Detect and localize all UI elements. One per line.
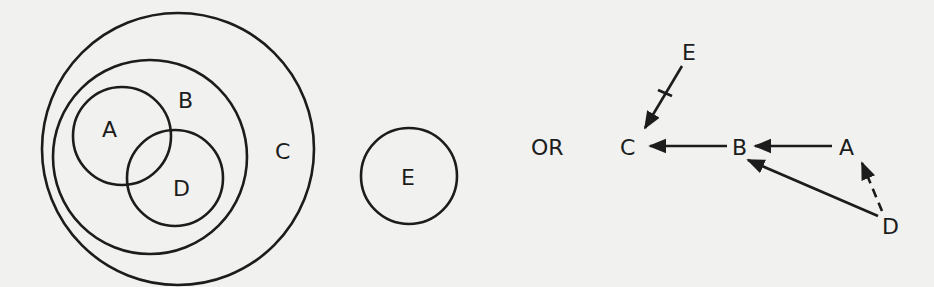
diagram-canvas: A B C D E OR E C B A D [0, 0, 934, 287]
node-b: B [732, 135, 747, 160]
set-a-circle [73, 87, 171, 185]
venn-diagram: A B C D [42, 13, 314, 285]
node-a: A [839, 135, 854, 160]
label-e: E [401, 165, 415, 190]
directed-graph: E C B A D [620, 40, 899, 239]
node-d: D [882, 214, 899, 239]
edge-d-b [748, 160, 878, 216]
label-b: B [178, 88, 193, 113]
edge-e-c [645, 66, 682, 128]
set-c-circle [42, 13, 314, 285]
separate-set-e: E [361, 128, 457, 224]
edge-d-a [862, 163, 882, 211]
label-c: C [275, 139, 290, 164]
node-c: C [620, 135, 635, 160]
label-a: A [102, 117, 117, 142]
node-e: E [682, 40, 696, 65]
or-label: OR [531, 135, 564, 160]
label-d: D [173, 176, 190, 201]
